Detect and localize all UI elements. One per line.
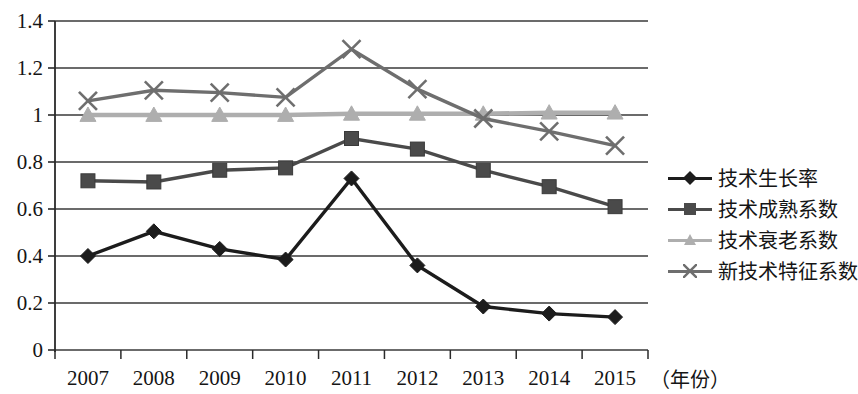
legend-marker-cross-icon <box>668 260 712 282</box>
data-point-diamond <box>146 224 161 239</box>
data-point-square <box>213 163 227 177</box>
legend-marker-triangle-icon <box>668 229 712 251</box>
marker-diamond <box>80 249 95 264</box>
legend-item[interactable]: 技术成熟系数 <box>668 193 858 224</box>
marker-square <box>410 142 424 156</box>
line-chart: 00.20.40.60.811.21.4 2007200820092010201… <box>0 0 858 394</box>
data-point-square <box>279 161 293 175</box>
marker-square <box>476 163 490 177</box>
marker-diamond <box>212 241 227 256</box>
legend-label: 技术成熟系数 <box>718 194 838 223</box>
data-point-square <box>81 174 95 188</box>
y-axis-tick-label: 0.6 <box>17 199 43 220</box>
series-line <box>88 178 615 317</box>
x-axis-tick-label: 2015 <box>575 368 655 389</box>
marker-diamond <box>608 310 623 325</box>
x-axis-ticks <box>55 350 648 359</box>
y-axis-tick-label: 1.4 <box>17 11 43 32</box>
data-point-cross <box>408 80 426 98</box>
legend-label: 技术生长率 <box>718 163 818 192</box>
y-axis-tick-label: 1 <box>33 105 44 126</box>
x-axis-unit-label: （年份） <box>650 370 730 390</box>
y-axis-tick-label: 0.8 <box>17 152 43 173</box>
y-axis-ticks <box>48 21 55 350</box>
data-point-square <box>542 180 556 194</box>
marker-square <box>542 180 556 194</box>
y-axis-tick-label: 0.4 <box>17 246 43 267</box>
marker-diamond <box>146 224 161 239</box>
series-3 <box>80 105 623 122</box>
marker-square <box>213 163 227 177</box>
series-1 <box>80 171 622 325</box>
data-point-diamond <box>608 310 623 325</box>
legend-marker-glyph <box>683 233 697 247</box>
legend-marker-glyph <box>683 202 697 216</box>
data-point-square <box>608 200 622 214</box>
data-point-diamond <box>80 249 95 264</box>
y-axis-tick-label: 0.2 <box>17 293 43 314</box>
legend-item[interactable]: 技术衰老系数 <box>668 224 858 255</box>
legend-marker-diamond-icon <box>668 167 712 189</box>
data-point-square <box>476 163 490 177</box>
legend-marker-glyph <box>683 264 697 278</box>
legend-marker-square-icon <box>668 198 712 220</box>
marker-square <box>608 200 622 214</box>
y-axis-tick-label: 0 <box>33 340 44 361</box>
marker-square <box>279 161 293 175</box>
data-point-diamond <box>542 306 557 321</box>
legend-label: 新技术特征系数 <box>718 256 858 285</box>
marker-square <box>345 132 359 146</box>
chart-legend: 技术生长率技术成熟系数技术衰老系数新技术特征系数 <box>668 162 858 286</box>
marker-square <box>81 174 95 188</box>
marker-square <box>147 175 161 189</box>
legend-label: 技术衰老系数 <box>718 225 838 254</box>
data-point-cross <box>343 40 361 58</box>
data-point-square <box>345 132 359 146</box>
data-point-diamond <box>212 241 227 256</box>
legend-item[interactable]: 技术生长率 <box>668 162 858 193</box>
data-point-square <box>147 175 161 189</box>
y-axis-tick-label: 1.2 <box>17 58 43 79</box>
marker-diamond <box>542 306 557 321</box>
data-point-square <box>410 142 424 156</box>
legend-marker-glyph <box>683 171 697 185</box>
legend-item[interactable]: 新技术特征系数 <box>668 255 858 286</box>
